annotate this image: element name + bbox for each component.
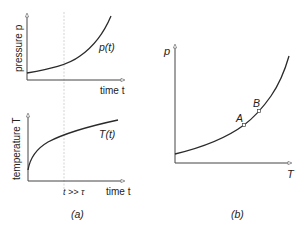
point-a-label: A bbox=[235, 112, 243, 124]
pressure-plot: p(t) time t pressure p bbox=[13, 13, 125, 96]
point-b-marker bbox=[258, 110, 261, 113]
temperature-x-axis-arrow bbox=[121, 179, 125, 182]
panel-b-caption: (b) bbox=[231, 208, 244, 220]
pressure-x-label: time t bbox=[100, 85, 125, 96]
pressure-curve-label: p(t) bbox=[98, 41, 115, 53]
time-marker-label: t >> τ bbox=[63, 187, 85, 197]
panel-a-caption: (a) bbox=[71, 208, 84, 220]
pressure-y-label: pressure p bbox=[13, 24, 24, 72]
pressure-y-axis-arrow bbox=[25, 13, 28, 17]
pt-y-axis-arrow bbox=[173, 44, 176, 48]
temperature-curve-label: T(t) bbox=[99, 128, 115, 140]
temperature-plot: T(t) t >> τ time t temperature T bbox=[11, 113, 131, 197]
diagram-canvas: p(t) time t pressure p T(t) t >> τ time … bbox=[0, 0, 305, 229]
temperature-y-axis-arrow bbox=[26, 113, 29, 117]
pt-plot: A B p T bbox=[163, 44, 295, 180]
pt-x-label: T bbox=[287, 168, 295, 180]
pressure-x-axis-arrow bbox=[121, 78, 125, 81]
pt-y-label: p bbox=[163, 45, 170, 57]
point-b-label: B bbox=[253, 97, 260, 109]
temperature-y-label: temperature T bbox=[11, 117, 22, 180]
pt-curve bbox=[175, 56, 289, 154]
pt-x-axis-arrow bbox=[288, 161, 292, 164]
temperature-x-label: time t bbox=[106, 186, 131, 197]
